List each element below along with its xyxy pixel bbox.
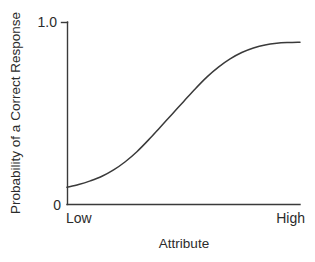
y-axis-tick-label-top: 1.0 (38, 14, 58, 30)
x-axis-tick-label-right: High (276, 210, 305, 226)
y-axis-tick-label-bottom: 0 (53, 197, 61, 213)
probability-curve (67, 42, 300, 187)
y-axis-title: Probability of a Correct Response (8, 12, 23, 214)
x-axis-tick-label-left: Low (66, 210, 93, 226)
x-axis-title: Attribute (159, 236, 209, 251)
item-characteristic-curve-chart: 1.0 0 Low High Probability of a Correct … (0, 0, 315, 262)
